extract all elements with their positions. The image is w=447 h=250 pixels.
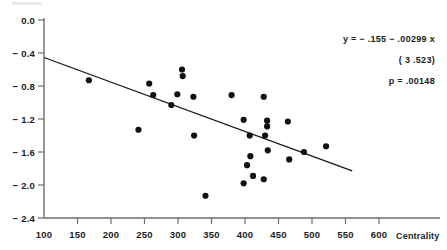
x-axis-tick-label: 600 [371,229,387,240]
data-point [135,127,141,133]
data-point [286,156,292,162]
data-point [174,91,180,97]
data-point [191,132,197,138]
data-point [146,80,152,86]
p-value-annotation: p = .00148 [389,76,435,86]
data-point [241,117,247,123]
x-axis-tick-label: 450 [270,229,286,240]
data-point [285,118,291,124]
data-point [241,180,247,186]
y-axis-tick-label: 0.0 [0,15,35,26]
t-statistic-annotation: ( 3 .523) [399,55,435,65]
x-axis-tick-label: 300 [170,229,186,240]
y-axis-tick-label: − 2.0 [0,180,35,191]
data-point [150,92,156,98]
data-point [190,94,196,100]
x-axis-tick-label: 550 [337,229,353,240]
x-axis-tick-label: 400 [237,229,253,240]
x-axis-tick-label: 500 [304,229,320,240]
y-axis-tick-label: − 1.2 [0,114,35,125]
data-point [202,193,208,199]
x-axis-tick-label: 200 [103,229,119,240]
regression-equation-annotation: y = − .155 − .00299 x [343,34,435,44]
x-axis-ticks [78,218,380,224]
data-point [323,143,329,149]
data-point [261,176,267,182]
x-axis-tick-label: 250 [136,229,152,240]
data-point [264,118,270,124]
data-point [301,149,307,155]
data-point [244,162,250,168]
data-point [180,73,186,79]
data-point [86,77,92,83]
data-point [179,66,185,72]
data-point [262,132,268,138]
x-axis-title: Centrality [396,231,440,241]
y-axis-tick-label: − 1.6 [0,147,35,158]
data-point [261,94,267,100]
scatter-plot-figure: 0.0− 0.4− 0.8− 1.2− 1.6− 2.0− 2.4 100150… [0,0,447,250]
data-point [250,173,256,179]
data-point [168,102,174,108]
x-axis-tick-label: 150 [69,229,85,240]
x-axis-tick-label: 100 [36,229,52,240]
data-point [264,123,270,129]
x-axis-tick-label: 350 [203,229,219,240]
data-point [265,147,271,153]
y-axis-tick-label: − 2.4 [0,213,35,224]
data-point [247,153,253,159]
y-axis-tick-label: − 0.4 [0,48,35,59]
y-axis-ticks [38,20,44,218]
data-point [247,132,253,138]
y-axis-tick-label: − 0.8 [0,81,35,92]
data-point [229,92,235,98]
